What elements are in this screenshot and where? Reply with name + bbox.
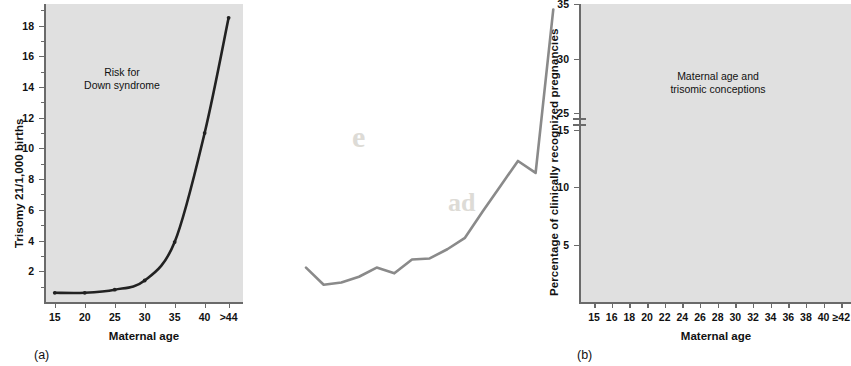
panel-caption-b: (b) (577, 348, 592, 362)
x-tick-label-b: 20 (641, 311, 653, 323)
annotation-b-line2: trisomic conceptions (670, 83, 765, 95)
annotation-b-line1: Maternal age and (677, 70, 759, 82)
x-tick-b (612, 303, 614, 308)
x-tick-label-b: 24 (676, 311, 688, 323)
x-tick-b (665, 303, 667, 308)
x-tick-b (806, 303, 808, 308)
x-tick-label-b: 40 (818, 311, 830, 323)
x-tick-b (771, 303, 773, 308)
x-tick-b (629, 303, 631, 308)
x-tick-label-b: 16 (606, 311, 618, 323)
x-tick-label-b: 30 (729, 311, 741, 323)
x-tick-label-b: 28 (712, 311, 724, 323)
x-tick-b (718, 303, 720, 308)
plot-area-b (580, 4, 851, 302)
x-tick-b (735, 303, 737, 308)
annotation-b: Maternal age and trisomic conceptions (670, 70, 765, 96)
x-tick-label-b: 38 (800, 311, 812, 323)
x-tick-label-b: 26 (694, 311, 706, 323)
x-tick-label-b: 32 (747, 311, 759, 323)
y-axis-line-b (579, 4, 581, 303)
x-tick-b (753, 303, 755, 308)
x-tick-label-b: 15 (588, 311, 600, 323)
x-axis-title-b: Maternal age (681, 330, 751, 342)
curve-path-b (306, 9, 553, 284)
x-tick-b (594, 303, 596, 308)
x-tick-label-b: 18 (623, 311, 635, 323)
x-tick-label-b: 34 (765, 311, 777, 323)
x-tick-label-b: ≥42 (833, 311, 850, 323)
x-tick-b (647, 303, 649, 308)
x-tick-b (841, 303, 843, 308)
x-tick-b (788, 303, 790, 308)
x-tick-b (682, 303, 684, 308)
x-tick-label-b: 22 (659, 311, 671, 323)
panel-b: Percentage of clinically recognized preg… (288, 0, 576, 366)
x-tick-b (700, 303, 702, 308)
x-tick-label-b: 36 (782, 311, 794, 323)
x-tick-b (824, 303, 826, 308)
x-axis-line-b (579, 302, 851, 304)
